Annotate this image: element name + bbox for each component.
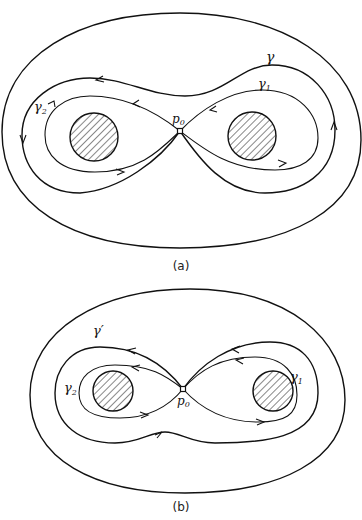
figure-a: γ γ1 γ2 p0 (a) bbox=[2, 13, 361, 273]
arrow-icon bbox=[331, 122, 337, 130]
diagram-canvas: γ γ1 γ2 p0 (a) γ′ γ1 γ2 p0 (b) bbox=[0, 0, 362, 520]
arrow-icon bbox=[236, 358, 244, 364]
arrow-icon bbox=[210, 106, 217, 112]
arrow-icon bbox=[278, 160, 286, 167]
label-gamma2-a: γ2 bbox=[34, 99, 47, 116]
arrow-icon bbox=[20, 135, 26, 143]
figure-b: γ′ γ1 γ2 p0 (b) bbox=[30, 289, 345, 514]
outer-boundary-b bbox=[30, 289, 345, 493]
p0-point-a bbox=[178, 129, 183, 134]
left-hole-b bbox=[93, 371, 133, 411]
label-gamma-prime-b: γ′ bbox=[93, 323, 104, 338]
label-gamma1-a: γ1 bbox=[258, 76, 271, 93]
left-hole-a bbox=[70, 113, 118, 161]
label-gamma2-b: γ2 bbox=[64, 380, 77, 397]
label-gamma-a: γ bbox=[266, 49, 275, 65]
caption-a: (a) bbox=[173, 259, 190, 273]
label-p0-b: p0 bbox=[177, 394, 190, 409]
caption-b: (b) bbox=[173, 500, 190, 514]
arrow-icon bbox=[48, 101, 55, 107]
label-p0-a: p0 bbox=[172, 112, 185, 127]
label-gamma1-b: γ1 bbox=[290, 369, 303, 386]
right-hole-b bbox=[253, 371, 293, 411]
right-hole-a bbox=[228, 112, 276, 160]
p0-point-b bbox=[181, 387, 186, 392]
